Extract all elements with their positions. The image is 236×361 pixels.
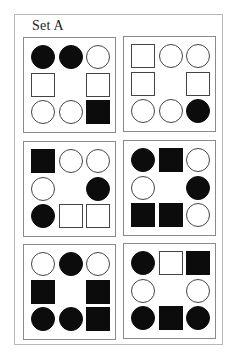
filled-square-icon [159, 306, 183, 330]
empty-square-icon [59, 204, 83, 228]
filled-circle-icon [59, 45, 83, 69]
empty-circle-icon [86, 149, 110, 173]
filled-circle-icon [186, 99, 210, 123]
filled-circle-icon [31, 45, 55, 69]
filled-square-icon [31, 149, 55, 173]
filled-circle-icon [131, 306, 155, 330]
filled-circle-icon [131, 148, 155, 172]
panel-6 [123, 243, 216, 339]
filled-square-icon [86, 307, 110, 331]
filled-square-icon [159, 203, 183, 227]
empty-circle-icon [186, 148, 210, 172]
panel-5 [23, 244, 116, 340]
filled-circle-icon [86, 177, 110, 201]
empty-square-icon [86, 73, 110, 97]
panel-2 [123, 36, 216, 132]
empty-circle-icon [186, 203, 210, 227]
empty-circle-icon [31, 177, 55, 201]
filled-circle-icon [59, 307, 83, 331]
empty-circle-icon [186, 279, 210, 303]
empty-circle-icon [159, 44, 183, 68]
filled-square-icon [31, 280, 55, 304]
empty-square-icon [186, 72, 210, 96]
filled-square-icon [86, 100, 110, 124]
empty-square-icon [86, 204, 110, 228]
empty-circle-icon [86, 252, 110, 276]
empty-circle-icon [31, 252, 55, 276]
panel-1 [23, 37, 116, 133]
empty-square-icon [131, 44, 155, 68]
filled-square-icon [131, 203, 155, 227]
filled-circle-icon [186, 306, 210, 330]
filled-circle-icon [31, 307, 55, 331]
empty-circle-icon [159, 99, 183, 123]
filled-circle-icon [186, 176, 210, 200]
empty-circle-icon [86, 45, 110, 69]
empty-square-icon [131, 72, 155, 96]
filled-circle-icon [131, 251, 155, 275]
panel-4 [123, 140, 216, 236]
empty-circle-icon [59, 100, 83, 124]
filled-square-icon [86, 280, 110, 304]
set-title: Set A [32, 18, 64, 34]
empty-circle-icon [131, 279, 155, 303]
filled-square-icon [159, 148, 183, 172]
filled-circle-icon [31, 204, 55, 228]
empty-circle-icon [131, 176, 155, 200]
empty-circle-icon [131, 99, 155, 123]
empty-circle-icon [186, 44, 210, 68]
empty-circle-icon [59, 149, 83, 173]
filled-square-icon [186, 251, 210, 275]
empty-circle-icon [31, 100, 55, 124]
empty-square-icon [159, 251, 183, 275]
empty-square-icon [31, 73, 55, 97]
panel-3 [23, 141, 116, 237]
filled-circle-icon [59, 252, 83, 276]
